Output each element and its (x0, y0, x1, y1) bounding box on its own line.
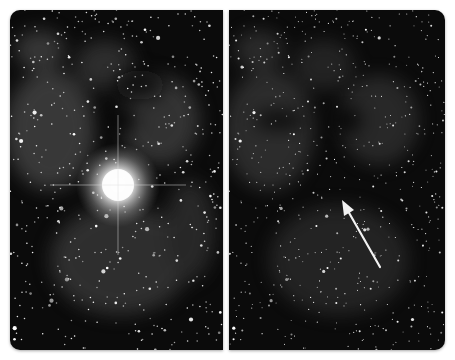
star-field-before (10, 10, 223, 350)
star-field-after (229, 10, 445, 350)
panel-before (10, 10, 223, 350)
panel-after (229, 10, 445, 350)
